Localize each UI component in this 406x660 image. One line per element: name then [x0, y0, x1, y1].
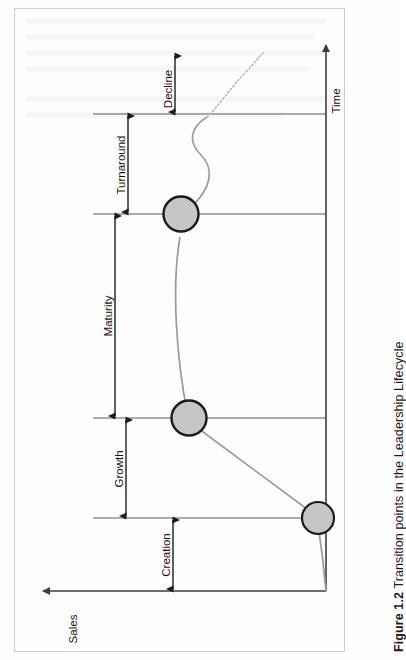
- transition-point-markers: [164, 197, 335, 535]
- x-axis-label-time: Time: [330, 88, 342, 113]
- y-axis-label-sales: Sales: [67, 614, 79, 643]
- stage-label-maturity: Maturity: [102, 295, 114, 336]
- stage-label-growth: Growth: [113, 450, 125, 487]
- stage-label-decline: Decline: [162, 70, 174, 108]
- transition-point-maturity-turnaround: [164, 197, 199, 232]
- stage-labels: Decline Turnaround Maturity Growth Creat…: [102, 70, 174, 577]
- stage-label-turnaround: Turnaround: [115, 135, 127, 194]
- figure-frame: Decline Turnaround Maturity Growth Creat…: [14, 8, 345, 652]
- stage-label-creation: Creation: [160, 533, 172, 576]
- transition-point-growth-maturity: [172, 401, 207, 436]
- figure-caption-text: Transition points in the Leadership Life…: [392, 341, 406, 588]
- figure-caption: Figure 1.2 Transition points in the Lead…: [392, 12, 406, 652]
- figure-number: Figure 1.2: [392, 592, 406, 652]
- transition-point-creation-growth: [302, 502, 334, 534]
- axis-labels: Time Sales: [67, 88, 342, 643]
- leadership-lifecycle-chart: Decline Turnaround Maturity Growth Creat…: [15, 9, 346, 653]
